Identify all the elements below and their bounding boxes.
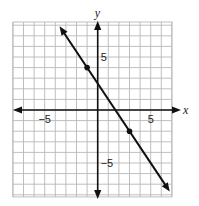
line-arrow-end-icon: [162, 182, 170, 191]
data-point: [84, 65, 90, 71]
data-point: [127, 128, 133, 134]
x-axis-label: x: [182, 103, 189, 117]
y-tick-label: 5: [101, 51, 107, 63]
y-tick-label: −5: [101, 157, 114, 169]
x-tick-label: 5: [148, 113, 154, 125]
x-axis-arrow-right-icon: [172, 106, 181, 113]
coordinate-plane: −555−5 x y: [0, 0, 199, 206]
x-tick-label: −5: [38, 113, 51, 125]
y-axis-label: y: [94, 6, 101, 20]
x-axis-arrow-left-icon: [13, 106, 22, 113]
